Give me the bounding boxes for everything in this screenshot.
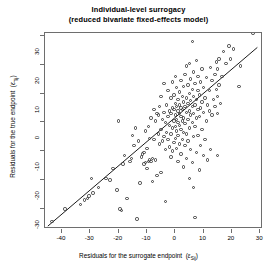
x-tick-mark xyxy=(259,229,260,233)
data-point xyxy=(142,151,145,154)
data-point xyxy=(158,142,161,145)
x-axis-symbol-group: (εSij) xyxy=(184,252,198,259)
data-point xyxy=(134,126,137,129)
x-tick-label: 30 xyxy=(247,234,271,241)
data-point xyxy=(161,139,164,142)
data-point xyxy=(193,216,196,219)
data-point xyxy=(198,93,201,96)
data-point xyxy=(149,116,152,119)
data-point xyxy=(121,162,124,165)
data-point xyxy=(195,98,198,101)
data-point xyxy=(171,80,174,83)
y-axis-symbol-group: (εTij) xyxy=(9,75,16,89)
y-tick-mark xyxy=(40,93,44,94)
y-tick-mark xyxy=(40,64,44,65)
data-point xyxy=(174,113,177,116)
data-point xyxy=(191,88,194,91)
data-point xyxy=(176,160,179,163)
data-point xyxy=(179,79,182,82)
data-point xyxy=(181,108,184,111)
scatter-plot-figure: Individual-level surrogacy (reduced biva… xyxy=(0,0,277,273)
data-point xyxy=(185,132,188,135)
data-point xyxy=(224,62,227,65)
x-tick-mark xyxy=(203,229,204,233)
data-point xyxy=(200,128,203,131)
data-point xyxy=(157,132,160,135)
data-point xyxy=(137,139,140,142)
x-tick-label: -10 xyxy=(134,234,158,241)
data-point xyxy=(159,128,162,131)
chart-title: Individual-level surrogacy xyxy=(0,5,277,15)
data-point xyxy=(145,167,148,170)
data-point xyxy=(166,115,169,118)
data-point xyxy=(208,109,211,112)
data-point xyxy=(186,118,189,121)
y-tick-mark xyxy=(40,179,44,180)
y-tick-label: -20 xyxy=(33,179,40,213)
x-tick-mark xyxy=(231,229,232,233)
y-tick-mark xyxy=(40,150,44,151)
data-point xyxy=(227,44,230,47)
y-axis-symbol: ε xyxy=(9,82,16,85)
data-point xyxy=(172,93,175,96)
data-point xyxy=(210,113,213,116)
data-point xyxy=(159,95,162,98)
data-point xyxy=(63,207,66,210)
data-point xyxy=(215,88,218,91)
data-point xyxy=(210,79,213,82)
data-point xyxy=(132,144,135,147)
data-point xyxy=(183,144,186,147)
data-point xyxy=(172,141,175,144)
data-point xyxy=(229,57,232,60)
data-point xyxy=(196,134,199,137)
data-point xyxy=(193,103,196,106)
data-point xyxy=(185,96,188,99)
regression-line xyxy=(45,33,261,227)
data-point xyxy=(188,109,191,112)
data-point xyxy=(205,119,208,122)
data-point xyxy=(192,70,195,73)
data-point xyxy=(162,82,165,85)
data-point xyxy=(87,194,90,197)
plot-panel xyxy=(44,32,262,228)
data-point xyxy=(111,167,114,170)
data-point xyxy=(178,90,181,93)
chart-title-block: Individual-level surrogacy (reduced biva… xyxy=(0,5,277,24)
data-point xyxy=(175,129,178,132)
x-tick-label: -40 xyxy=(49,234,73,241)
y-tick-label: 30 xyxy=(33,34,40,68)
data-point xyxy=(176,134,179,137)
data-point xyxy=(174,75,177,78)
data-point xyxy=(193,82,196,85)
x-tick-mark xyxy=(118,229,119,233)
data-point xyxy=(115,188,118,191)
data-point xyxy=(185,64,188,67)
data-point xyxy=(135,217,138,220)
data-point xyxy=(179,152,182,155)
data-point xyxy=(186,102,189,105)
data-point xyxy=(117,119,120,122)
data-point xyxy=(191,121,194,124)
data-point xyxy=(198,168,201,171)
x-tick-mark xyxy=(146,229,147,233)
data-point xyxy=(152,138,155,141)
y-axis-title: Residuals for the true endpoint (εTij) xyxy=(9,27,18,227)
data-point xyxy=(174,137,177,140)
x-tick-mark xyxy=(89,229,90,233)
y-tick-mark xyxy=(40,35,44,36)
x-tick-label: 10 xyxy=(191,234,215,241)
data-point xyxy=(120,209,123,212)
data-point xyxy=(213,105,216,108)
data-point xyxy=(152,108,155,111)
data-point xyxy=(200,67,203,70)
data-point xyxy=(178,142,181,145)
y-tick-label: -10 xyxy=(33,150,40,184)
data-point xyxy=(154,119,157,122)
data-point xyxy=(162,111,165,114)
data-point xyxy=(171,149,174,152)
data-point xyxy=(149,160,152,163)
data-point xyxy=(200,100,203,103)
x-axis-symbol-subscript: Sij xyxy=(191,256,196,261)
data-point xyxy=(181,95,184,98)
data-point xyxy=(169,155,172,158)
